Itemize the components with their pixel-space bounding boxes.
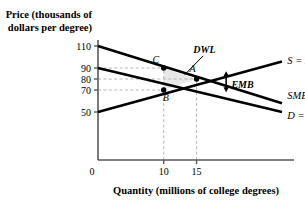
x-tick-label-15: 15 <box>192 166 202 177</box>
point-label-b: B <box>163 92 169 103</box>
data-point-a <box>194 76 199 81</box>
curve-label-s-mc: S = MC <box>287 55 305 66</box>
point-label-a: A <box>189 63 197 74</box>
y-tick-label-110: 110 <box>76 41 91 52</box>
emb-label: EMB <box>230 79 254 90</box>
y-tick-label-50: 50 <box>81 107 91 118</box>
y-axis-title-line1: Price (thousands of <box>6 9 93 21</box>
y-axis-title-line2: dollars per degree) <box>8 22 93 34</box>
data-point-c <box>161 65 166 70</box>
y-tick-label-80: 80 <box>81 74 91 85</box>
y-tick-label-90: 90 <box>81 63 91 74</box>
supply-demand-chart: 1109080705010150SMBD = MBpS = MCDWLEMBAB… <box>0 0 305 201</box>
point-label-c: C <box>152 54 159 65</box>
curve-label-d-mbp: D = MBp <box>286 110 305 124</box>
chart-canvas: 1109080705010150SMBD = MBpS = MCDWLEMBAB… <box>0 0 305 201</box>
dwl-label: DWL <box>192 44 215 55</box>
y-tick-label-70: 70 <box>81 85 91 96</box>
x-tick-label-10: 10 <box>159 166 169 177</box>
emb-arrowhead-down <box>223 87 228 92</box>
curve-label-smb: SMB <box>287 90 305 101</box>
emb-arrowhead-up <box>223 71 228 76</box>
origin-label: 0 <box>90 166 95 177</box>
x-axis-title: Quantity (millions of college degrees) <box>113 185 280 197</box>
